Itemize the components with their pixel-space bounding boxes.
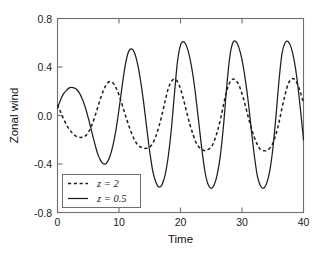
chart-legend: z = 2 z = 0.5 [63, 175, 141, 208]
y-tick-label-3: -0.4 [34, 158, 52, 170]
x-tick-label-0: 0 [55, 216, 61, 228]
x-tick-label-2: 20 [175, 216, 187, 228]
y-tick-label-2: 0.0 [37, 110, 52, 122]
chart-figure: 0.8 0.4 0.0 -0.4 -0.8 0 10 20 30 40 Time… [0, 0, 323, 255]
legend-label-z05: z = 0.5 [96, 193, 127, 204]
y-tick-label-0: 0.8 [37, 13, 52, 25]
zonal-wind-line-chart: 0.8 0.4 0.0 -0.4 -0.8 0 10 20 30 40 Time… [0, 0, 323, 255]
legend-label-z2: z = 2 [96, 178, 119, 189]
y-tick-label-4: -0.8 [34, 207, 52, 219]
series-line-z05 [58, 41, 304, 189]
y-axis-title: Zonal wind [8, 88, 20, 144]
x-axis-title: Time [168, 233, 193, 245]
x-tick-label-1: 10 [113, 216, 125, 228]
y-tick-label-1: 0.4 [37, 61, 52, 73]
x-tick-label-3: 30 [236, 216, 248, 228]
x-tick-label-4: 40 [298, 216, 310, 228]
